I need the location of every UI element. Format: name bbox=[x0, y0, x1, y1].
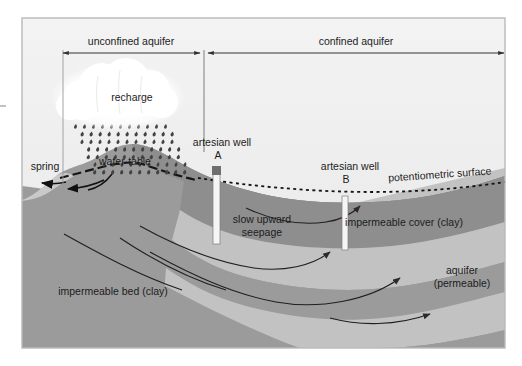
label-artesian-well-a-id: A bbox=[214, 149, 221, 161]
label-impermeable-bed: impermeable bed (clay) bbox=[58, 285, 168, 297]
label-recharge: recharge bbox=[111, 91, 153, 103]
label-confined-aquifer: confined aquifer bbox=[319, 35, 394, 47]
label-slow-upward-seepage-line1: slow upward bbox=[233, 213, 292, 225]
label-aquifer-line1: aquifer bbox=[446, 264, 479, 276]
well-a-tube bbox=[213, 170, 220, 244]
label-impermeable-cover: impermeable cover (clay) bbox=[345, 216, 463, 228]
label-unconfined-aquifer: unconfined aquifer bbox=[88, 35, 175, 47]
artesian-well-a[interactable] bbox=[212, 166, 221, 244]
diagram-body: unconfined aquifer confined aquifer rech… bbox=[22, 18, 505, 348]
label-artesian-well-b-title: artesian well bbox=[321, 160, 379, 172]
label-spring: spring bbox=[31, 160, 60, 172]
label-water-table: water-table bbox=[98, 155, 151, 167]
label-slow-upward-seepage-line2: seepage bbox=[242, 226, 282, 238]
label-artesian-well-a-title: artesian well bbox=[193, 136, 251, 148]
label-aquifer-line2: (permeable) bbox=[434, 277, 491, 289]
label-artesian-well-b-id: B bbox=[342, 173, 349, 185]
well-a-collar bbox=[212, 166, 221, 175]
diagram-canvas: unconfined aquifer confined aquifer rech… bbox=[0, 0, 522, 366]
aquifer-cross-section-svg: unconfined aquifer confined aquifer rech… bbox=[0, 0, 522, 366]
